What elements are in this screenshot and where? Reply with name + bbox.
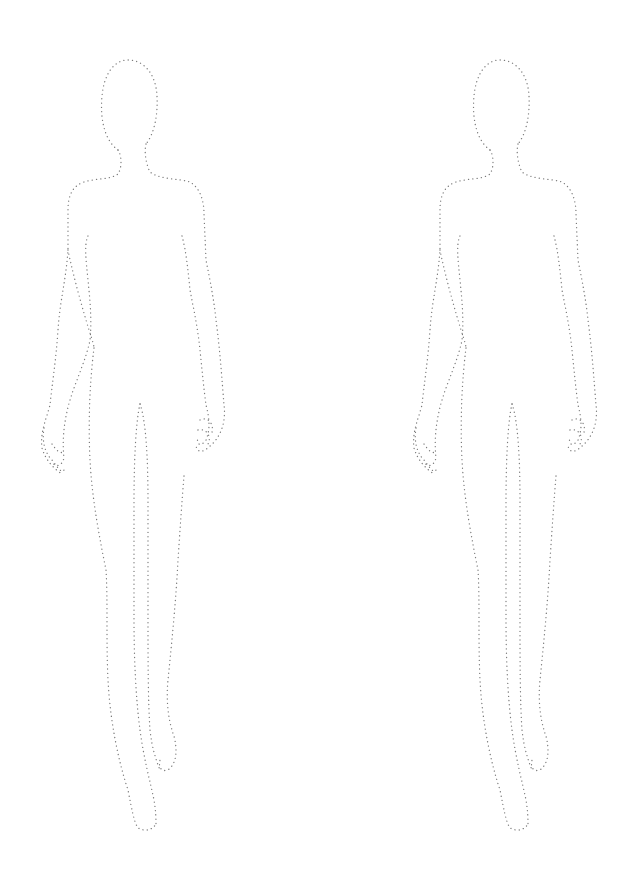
waist-left — [440, 250, 466, 348]
right-hand — [198, 419, 212, 444]
left-hand — [415, 428, 436, 471]
croquis-figure-left — [0, 0, 264, 872]
right-hand — [570, 419, 584, 444]
inner-leg-right — [512, 404, 532, 770]
right-leg-outer — [159, 476, 184, 771]
waist-left — [68, 250, 94, 348]
croquis-sheet — [0, 0, 636, 872]
inner-leg-left — [134, 404, 156, 824]
right-arm-inner — [182, 236, 209, 444]
left-arm-inner — [52, 236, 91, 465]
left-hand — [43, 428, 64, 471]
left-arm-inner — [424, 236, 463, 465]
left-leg-outer — [461, 348, 528, 830]
right-arm-inner — [554, 236, 581, 444]
inner-leg-right — [140, 404, 160, 770]
left-leg-outer — [89, 348, 156, 830]
head-outline — [102, 60, 158, 150]
inner-leg-left — [506, 404, 528, 824]
torso-outline — [414, 144, 597, 474]
right-leg-outer — [531, 476, 556, 771]
head-outline — [474, 60, 530, 150]
croquis-figure-right — [372, 0, 636, 872]
torso-outline — [42, 144, 225, 474]
